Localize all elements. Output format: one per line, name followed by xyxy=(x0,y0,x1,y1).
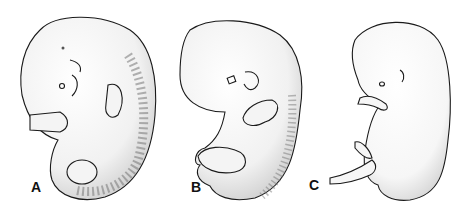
panel-label-a: A xyxy=(31,180,41,194)
panel-label-b: B xyxy=(191,180,201,194)
embryo-b xyxy=(180,21,302,200)
panel-label-c: C xyxy=(309,178,319,192)
embryo-illustrations xyxy=(0,0,470,211)
embryo-c xyxy=(330,22,450,200)
embryo-a xyxy=(21,17,156,199)
embryo-figure: A B C xyxy=(0,0,470,211)
